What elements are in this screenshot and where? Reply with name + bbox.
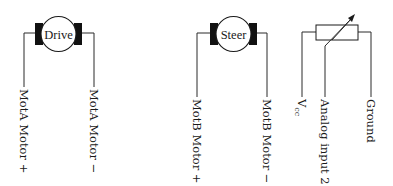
potentiometer: Vcc Analog input 2 Ground bbox=[293, 14, 378, 185]
pot-vcc-label: Vcc bbox=[293, 98, 309, 117]
pot-ground-label: Ground bbox=[364, 99, 378, 143]
pot-wire-vcc bbox=[302, 32, 316, 97]
steer-wire-minus bbox=[256, 33, 267, 97]
wiring-diagram: Drive MotA Motor + MotA Motor − Steer Mo… bbox=[0, 0, 393, 186]
pot-vcc-subscript: cc bbox=[293, 107, 302, 116]
pot-resistor-body bbox=[316, 25, 358, 40]
steer-minus-label: MotB Motor − bbox=[260, 99, 274, 183]
drive-motor-label: Drive bbox=[44, 28, 73, 42]
pot-wire-ground bbox=[358, 32, 371, 97]
steer-motor: Steer MotB Motor + MotB Motor − bbox=[190, 17, 274, 184]
drive-plus-label: MotA Motor + bbox=[17, 89, 31, 173]
drive-wire-plus bbox=[24, 33, 36, 87]
pot-analog-label: Analog input 2 bbox=[318, 98, 332, 185]
drive-minus-label: MotA Motor − bbox=[87, 89, 101, 173]
drive-motor: Drive MotA Motor + MotA Motor − bbox=[17, 17, 101, 174]
steer-wire-plus bbox=[197, 33, 211, 97]
drive-wire-minus bbox=[82, 33, 94, 87]
steer-plus-label: MotB Motor + bbox=[190, 99, 204, 183]
steer-motor-label: Steer bbox=[221, 28, 248, 42]
